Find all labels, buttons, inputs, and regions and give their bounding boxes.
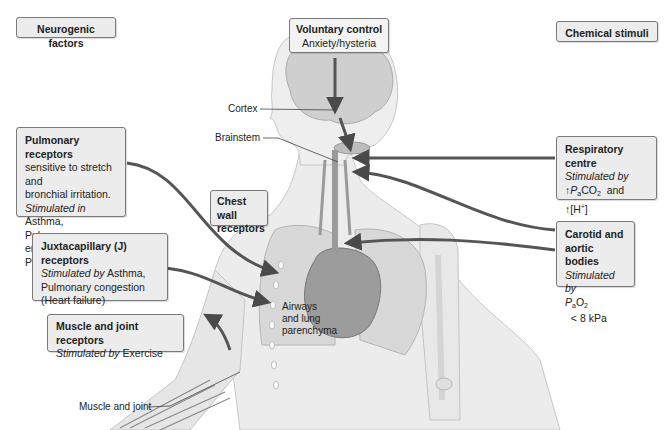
- respiratory-stim-prefix: Stimulated by: [565, 170, 648, 184]
- pulmonary-stim-rest: Asthma,: [25, 215, 64, 227]
- carotid-stim-prefix: Stimulated by: [565, 269, 626, 296]
- hydrogen-text: [H: [570, 203, 581, 215]
- o2-subscript: 2: [584, 302, 588, 309]
- muscle-joint-stim-prefix: Stimulated by: [56, 347, 120, 359]
- muscle-joint-stim-rest: Exercise: [120, 347, 163, 359]
- carotid-aortic-bodies-box: Carotid and aortic bodies Stimulated by …: [556, 221, 635, 287]
- juxtacapillary-line2: Pulmonary congestion: [41, 281, 159, 295]
- bracket-close: ]: [585, 203, 588, 215]
- muscle-joint-receptors-box: Muscle and joint receptors Stimulated by…: [47, 314, 184, 352]
- chemical-stimuli-label: Chemical stimuli: [565, 27, 648, 39]
- pulmonary-line2: bronchial irritation.: [25, 188, 117, 202]
- chest-wall-title-line2: receptors: [217, 222, 261, 236]
- muscle-and-joint-label: Muscle and joint: [79, 401, 151, 412]
- oxygen-text: O: [576, 296, 584, 308]
- juxtacapillary-line3: (Heart failure): [41, 294, 159, 308]
- respiratory-centre-box: Respiratory centre Stimulated by ↑PaCO2 …: [556, 136, 657, 200]
- carotid-title-line2: aortic bodies: [565, 242, 626, 269]
- cortex-label: Cortex: [228, 103, 257, 114]
- juxtacapillary-stim-rest: Asthma,: [105, 267, 146, 279]
- voluntary-control-text: Anxiety/hysteria: [302, 37, 376, 49]
- and-text: and: [601, 184, 624, 196]
- airways-label-line3: parenchyma: [282, 325, 337, 336]
- brainstem-label: Brainstem: [215, 132, 260, 143]
- voluntary-control-box: Voluntary control Anxiety/hysteria: [289, 18, 389, 53]
- pulmonary-line1: sensitive to stretch and: [25, 161, 117, 188]
- chemical-stimuli-header: Chemical stimuli: [556, 21, 658, 42]
- chest-wall-receptors-box: Chest wall receptors: [210, 190, 268, 226]
- juxtacapillary-title: Juxtacapillary (J) receptors: [41, 240, 159, 267]
- voluntary-control-title: Voluntary control: [294, 23, 384, 37]
- co-text: CO: [581, 184, 597, 196]
- respiratory-centre-title: Respiratory centre: [565, 143, 648, 170]
- juxtacapillary-receptors-box: Juxtacapillary (J) receptors Stimulated …: [32, 233, 168, 301]
- pulmonary-stim-prefix: Stimulated in: [25, 202, 86, 214]
- pulmonary-receptors-box: Pulmonary receptors sensitive to stretch…: [16, 127, 126, 217]
- pressure-symbol: P: [565, 296, 572, 308]
- juxtacapillary-stim-prefix: Stimulated by: [41, 267, 105, 279]
- airways-label-line2: and lung: [282, 313, 320, 324]
- threshold-text: < 8 kPa: [565, 312, 607, 324]
- neurogenic-factors-header: Neurogenic factors: [16, 17, 116, 38]
- carotid-title-line1: Carotid and: [565, 228, 626, 242]
- airways-label-line1: Airways: [282, 301, 317, 312]
- chest-wall-title-line1: Chest wall: [217, 195, 261, 222]
- pulmonary-receptors-title: Pulmonary receptors: [25, 134, 117, 161]
- muscle-joint-title: Muscle and joint receptors: [56, 320, 175, 347]
